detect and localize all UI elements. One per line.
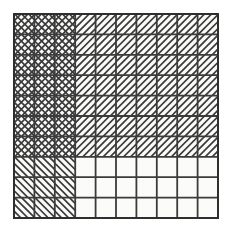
hatched-grid-figure <box>0 0 232 232</box>
figure-root: Ten by ten square grid with three hatch-… <box>0 0 232 232</box>
